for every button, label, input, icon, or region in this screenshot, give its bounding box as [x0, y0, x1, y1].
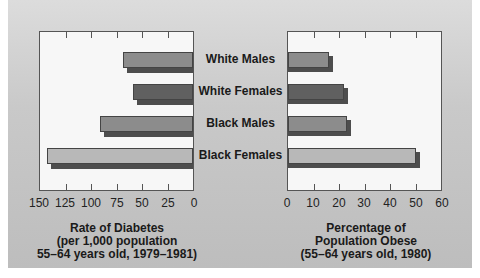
- axis-tick: [314, 32, 315, 38]
- axis-tick: [117, 184, 118, 190]
- axis-tick: [365, 184, 366, 190]
- right-tick-label: 20: [332, 196, 345, 210]
- obesity-axis-title: Percentage of Population Obese (55–64 ye…: [266, 222, 466, 261]
- left-tick-label: 150: [29, 196, 49, 210]
- obesity-chart-frame: [287, 31, 442, 191]
- axis-tick: [91, 32, 92, 38]
- axis-title-line: (55–64 years old, 1980): [266, 248, 466, 261]
- axis-tick: [365, 32, 366, 38]
- left-tick-label: 50: [135, 196, 148, 210]
- axis-tick: [66, 184, 67, 190]
- axis-title-line: 55–64 years old, 1979–1981): [17, 248, 217, 261]
- category-label-black-males: Black Males: [194, 116, 287, 130]
- left-tick-label: 0: [191, 196, 198, 210]
- axis-tick: [168, 184, 169, 190]
- diabetes-bar-white-females: [133, 84, 193, 100]
- axis-tick: [390, 32, 391, 38]
- axis-tick: [66, 32, 67, 38]
- diabetes-bar-black-males: [100, 116, 193, 132]
- diabetes-axis-title: Rate of Diabetes (per 1,000 population 5…: [17, 222, 217, 261]
- right-tick-label: 0: [284, 196, 291, 210]
- diabetes-chart-frame: [39, 31, 194, 191]
- axis-tick: [339, 184, 340, 190]
- right-tick-label: 10: [306, 196, 319, 210]
- left-tick-label: 25: [161, 196, 174, 210]
- left-tick-label: 125: [55, 196, 75, 210]
- category-label-black-females: Black Females: [194, 148, 287, 162]
- axis-tick: [168, 32, 169, 38]
- category-label-white-females: White Females: [194, 84, 287, 98]
- obesity-bar-white-males: [288, 52, 329, 68]
- diabetes-bar-black-females: [47, 148, 193, 164]
- right-tick-label: 50: [409, 196, 422, 210]
- axis-tick: [117, 32, 118, 38]
- right-tick-label: 40: [383, 196, 396, 210]
- left-tick-label: 75: [110, 196, 123, 210]
- axis-tick: [314, 184, 315, 190]
- axis-tick: [416, 32, 417, 38]
- right-tick-label: 60: [435, 196, 448, 210]
- axis-tick: [339, 32, 340, 38]
- left-tick-label: 100: [81, 196, 101, 210]
- obesity-bar-black-females: [288, 148, 416, 164]
- obesity-bar-black-males: [288, 116, 347, 132]
- axis-tick: [142, 32, 143, 38]
- axis-tick: [416, 184, 417, 190]
- axis-tick: [390, 184, 391, 190]
- obesity-bar-white-females: [288, 84, 344, 100]
- axis-tick: [142, 184, 143, 190]
- diabetes-bar-white-males: [123, 52, 193, 68]
- right-tick-label: 30: [357, 196, 370, 210]
- category-label-white-males: White Males: [194, 52, 287, 66]
- axis-tick: [91, 184, 92, 190]
